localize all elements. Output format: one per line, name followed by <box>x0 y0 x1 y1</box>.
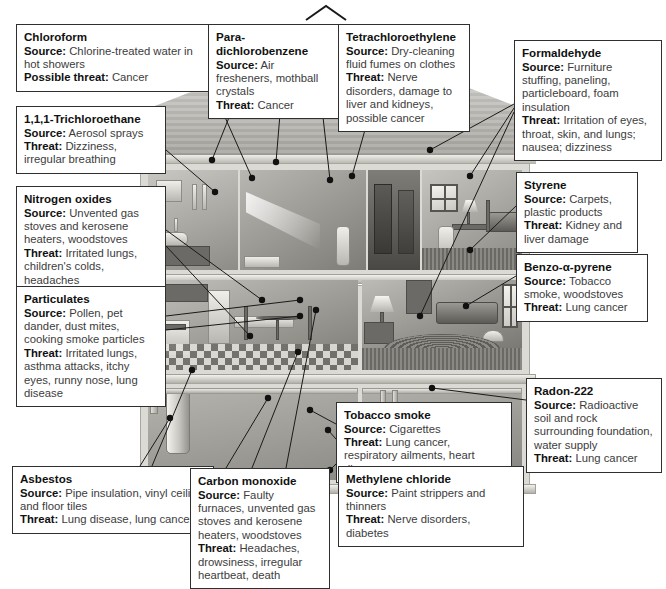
threat-text: Lung disease, lung cancer <box>61 513 193 525</box>
pollutant-name: Para-dichlorobenzene <box>216 30 333 58</box>
room-living-room <box>362 280 522 370</box>
room-shower-bedroom <box>240 170 366 270</box>
pollutant-source: Source: Pollen, pet dander, dust mites, … <box>24 307 158 347</box>
pollutant-source: Source: Furniture stuffing, paneling, pa… <box>522 61 654 115</box>
source-label: Source: <box>24 207 66 219</box>
source-label: Source: <box>24 127 66 139</box>
room-kitchen <box>148 280 358 370</box>
bedroom-window <box>430 184 458 212</box>
pollutant-source: Source: Aerosol sprays <box>24 127 158 140</box>
chair-back-right <box>308 306 312 340</box>
bathroom-fixture <box>192 184 197 210</box>
source-label: Source: <box>346 487 388 499</box>
pollutant-name: Particulates <box>24 292 158 306</box>
bathroom-fixture-2 <box>202 184 207 210</box>
pollutant-source: Source: Tobacco smoke, woodstoves <box>524 275 640 302</box>
source-text: Aerosol sprays <box>69 127 144 139</box>
threat-label: Threat: <box>216 99 254 111</box>
pollutant-name: Styrene <box>524 178 630 192</box>
pollutant-name: Carbon monoxide <box>198 474 322 488</box>
pollutant-name: Formaldehyde <box>522 46 654 60</box>
threat-label: Threat: <box>24 247 62 259</box>
callout-styrene: Styrene Source: Carpets, plastic product… <box>516 172 638 253</box>
pollutant-name: Chloroform <box>24 30 204 44</box>
pollutant-source: Source: Faulty furnaces, unvented gas st… <box>198 489 322 543</box>
sofa <box>436 302 498 324</box>
lamp-stand <box>467 212 470 224</box>
pollutant-threat: Threat: Dizziness, irregular breathing <box>24 140 158 167</box>
pollutant-name: Benzo-α-pyrene <box>524 260 640 274</box>
threat-label: Threat: <box>524 301 562 313</box>
upright-appliance <box>336 226 350 266</box>
source-text: Cigarettes <box>389 423 441 435</box>
pollutant-source: Source: Chlorine-treated water in hot sh… <box>24 45 204 72</box>
source-label: Source: <box>534 399 576 411</box>
pollutant-name: Methylene chloride <box>346 472 516 486</box>
source-label: Source: <box>24 307 66 319</box>
floor-lamp-shade <box>370 296 394 312</box>
threat-label: Threat: <box>20 513 58 525</box>
callout-tetrachloroethylene: Tetrachloroethylene Source: Dry-cleaning… <box>338 24 470 132</box>
pollutant-threat: Possible threat: Cancer <box>24 71 204 84</box>
threat-label: Threat: <box>522 114 560 126</box>
threat-text: Lung cancer <box>575 452 637 464</box>
pollutant-source: Source: Paint strippers and thinners <box>346 487 516 514</box>
pollutant-threat: Threat: Irritated lungs, asthma attacks,… <box>24 347 158 401</box>
pollutant-name: Tobacco smoke <box>344 408 504 422</box>
pollutant-name: Nitrogen oxides <box>24 192 158 206</box>
callout-chloroform: Chloroform Source: Chlorine-treated wate… <box>16 24 212 92</box>
room-bedroom <box>422 170 522 270</box>
source-label: Source: <box>24 45 66 57</box>
hall-door <box>374 184 392 254</box>
pollutant-name: 1,1,1-Trichloroethane <box>24 112 158 126</box>
threat-label: Threat: <box>24 347 62 359</box>
threat-label: Threat: <box>24 140 62 152</box>
source-label: Source: <box>344 423 386 435</box>
source-label: Source: <box>524 193 566 205</box>
threat-label: Threat: <box>534 452 572 464</box>
armchair <box>364 322 394 344</box>
pollutant-source: Source: Cigarettes <box>344 423 504 436</box>
room-hallway <box>368 170 420 270</box>
threat-label: Threat: <box>346 71 384 83</box>
pollutant-threat: Threat: Lung cancer <box>524 301 640 314</box>
bed-post <box>486 200 490 232</box>
tub-edge <box>244 256 280 268</box>
shower-spray <box>246 192 320 250</box>
threat-label: Threat: <box>344 436 382 448</box>
shelf-unit <box>406 280 432 314</box>
callout-methylene-chloride: Methylene chloride Source: Paint strippe… <box>338 466 524 547</box>
source-label: Source: <box>346 45 388 57</box>
kitchen-tile-floor <box>148 344 358 370</box>
callout-carbon-monoxide: Carbon monoxide Source: Faulty furnaces,… <box>190 468 330 589</box>
hall-door-2 <box>398 190 414 254</box>
lamp-shade <box>462 200 478 212</box>
callout-formaldehyde: Formaldehyde Source: Furniture stuffing,… <box>514 40 662 161</box>
chair-back-left <box>244 306 248 340</box>
pollutant-threat: Threat: Nerve disorders, diabetes <box>346 513 516 540</box>
bedroom-carpet <box>422 248 522 270</box>
callout-nitrogen-oxides: Nitrogen oxides Source: Unvented gas sto… <box>16 186 166 294</box>
threat-label: Threat: <box>198 542 236 554</box>
pollutant-threat: Threat: Irritated lungs, children's cold… <box>24 247 158 287</box>
callout-particulates: Particulates Source: Pollen, pet dander,… <box>16 286 166 407</box>
source-label: Source: <box>216 59 258 71</box>
callout-trichloroethane: 1,1,1-Trichloroethane Source: Aerosol sp… <box>16 106 166 174</box>
threat-text: Cancer <box>112 71 148 83</box>
source-label: Source: <box>198 489 240 501</box>
callout-para-dichlorobenzene: Para-dichlorobenzene Source: Air freshen… <box>208 24 341 119</box>
pollutant-threat: Threat: Headaches, drowsiness, irregular… <box>198 542 322 582</box>
pollutant-source: Source: Carpets, plastic products <box>524 193 630 220</box>
pollutant-threat: Threat: Irritation of eyes, throat, skin… <box>522 114 654 154</box>
source-label: Source: <box>524 275 566 287</box>
threat-label: Possible threat: <box>24 71 109 83</box>
pollutant-source: Source: Dry-cleaning fluid fumes on clot… <box>346 45 462 72</box>
source-label: Source: <box>522 61 564 73</box>
pollutant-name: Radon-222 <box>534 384 654 398</box>
threat-label: Threat: <box>346 513 384 525</box>
pollutant-name: Asbestos <box>20 472 206 486</box>
refrigerator <box>208 290 230 344</box>
basement-beam-2 <box>362 388 522 394</box>
pollutant-threat: Threat: Lung cancer <box>534 452 654 465</box>
